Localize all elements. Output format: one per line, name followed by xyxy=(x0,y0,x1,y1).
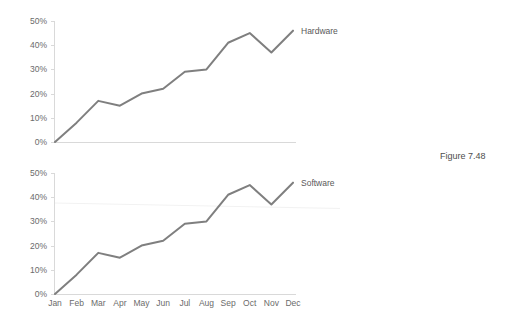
chart-software: 50%40%30%20%10%0% JanFebMarAprMayJunJulA… xyxy=(0,160,340,310)
x-axis-software: JanFebMarAprMayJunJulAugSepOctNovDec xyxy=(48,295,301,309)
series-line-hardware xyxy=(55,31,293,142)
x-tick-label: Jul xyxy=(179,298,190,308)
x-tick-label: May xyxy=(134,298,151,308)
x-tick-label: Dec xyxy=(285,298,301,308)
y-tick-label: 10% xyxy=(30,113,47,123)
y-axis-tick-labels: 50%40%30%20%10%0% xyxy=(30,168,47,299)
x-tick-label: Apr xyxy=(113,298,126,308)
y-tick-label: 40% xyxy=(30,40,47,50)
series-line-software xyxy=(55,183,293,294)
y-tick-label: 40% xyxy=(30,192,47,202)
x-tick-label: Sep xyxy=(221,298,236,308)
y-tick-label: 50% xyxy=(30,168,47,178)
series-label-software: Software xyxy=(301,178,335,188)
y-axis-hardware: 50%40%30%20%10%0% xyxy=(30,16,55,147)
x-axis-tick-labels: JanFebMarAprMayJunJulAugSepOctNovDec xyxy=(48,298,301,308)
y-tick-label: 20% xyxy=(30,241,47,251)
y-tick-label: 0% xyxy=(35,137,48,147)
series-label-hardware: Hardware xyxy=(301,26,338,36)
y-tick-label: 50% xyxy=(30,16,47,26)
x-tick-label: Nov xyxy=(264,298,280,308)
x-tick-label: Jan xyxy=(48,298,62,308)
chart-hardware-svg: 50%40%30%20%10%0% Hardware xyxy=(0,8,340,158)
y-tick-label: 30% xyxy=(30,64,47,74)
x-tick-label: Oct xyxy=(243,298,257,308)
y-tick-label: 30% xyxy=(30,216,47,226)
x-tick-label: Jun xyxy=(156,298,170,308)
y-axis-tick-labels: 50%40%30%20%10%0% xyxy=(30,16,47,147)
chart-software-svg: 50%40%30%20%10%0% JanFebMarAprMayJunJulA… xyxy=(0,160,340,310)
y-tick-label: 0% xyxy=(35,289,48,299)
x-tick-label: Mar xyxy=(91,298,106,308)
y-axis-ticks xyxy=(51,22,55,143)
y-tick-label: 10% xyxy=(30,265,47,275)
x-tick-label: Feb xyxy=(69,298,84,308)
x-tick-label: Aug xyxy=(199,298,214,308)
y-tick-label: 20% xyxy=(30,89,47,99)
y-axis-ticks xyxy=(51,174,55,295)
figure-page: 50%40%30%20%10%0% Hardware 50%40%30%20%1… xyxy=(0,0,523,317)
faint-background-rule xyxy=(55,203,341,212)
y-axis-software: 50%40%30%20%10%0% xyxy=(30,168,55,299)
chart-hardware: 50%40%30%20%10%0% Hardware xyxy=(0,8,340,158)
figure-caption: Figure 7.48 xyxy=(440,151,486,161)
